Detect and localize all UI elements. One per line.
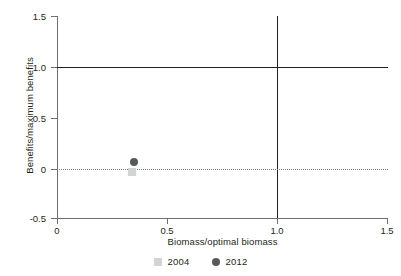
y-tick-1 bbox=[51, 16, 57, 17]
legend-label-2004: 2004 bbox=[168, 256, 190, 267]
optimal-benefits-reference-line bbox=[57, 67, 388, 68]
data-point-2012 bbox=[130, 158, 138, 166]
x-tick-label-1: 0 bbox=[37, 225, 77, 236]
x-tick-2 bbox=[167, 219, 168, 224]
y-tick-label-4: 0 bbox=[2, 164, 46, 175]
zero-benefits-reference-line bbox=[57, 169, 388, 170]
legend-circle-marker-icon bbox=[212, 258, 220, 266]
x-axis-title: Biomass/optimal biomass bbox=[57, 236, 388, 247]
y-tick-label-3: 0.5 bbox=[2, 113, 46, 124]
y-tick-label-1: 1.5 bbox=[2, 11, 46, 22]
y-tick-label-2: 1.0 bbox=[2, 62, 46, 73]
data-point-2004 bbox=[128, 168, 136, 176]
legend-item-2004[interactable]: 2004 bbox=[154, 256, 190, 267]
y-axis-line bbox=[57, 16, 58, 219]
legend-item-2012[interactable]: 2012 bbox=[212, 256, 248, 267]
x-tick-label-3: 1.0 bbox=[257, 225, 297, 236]
y-tick-label-5: -0.5 bbox=[2, 213, 46, 224]
scatter-chart: Benefits/maximum benefits 1.5 1.0 0.5 0 … bbox=[0, 0, 401, 276]
y-tick-3 bbox=[51, 118, 57, 119]
legend-label-2012: 2012 bbox=[226, 256, 248, 267]
legend-square-marker-icon bbox=[154, 258, 162, 266]
x-axis-line bbox=[57, 218, 388, 219]
x-tick-label-2: 0.5 bbox=[147, 225, 187, 236]
optimal-biomass-reference-line bbox=[277, 16, 278, 218]
x-tick-4 bbox=[387, 219, 388, 224]
chart-legend: 2004 2012 bbox=[0, 256, 401, 267]
x-tick-label-4: 1.5 bbox=[367, 225, 401, 236]
x-tick-1 bbox=[57, 219, 58, 224]
x-tick-3 bbox=[277, 219, 278, 224]
